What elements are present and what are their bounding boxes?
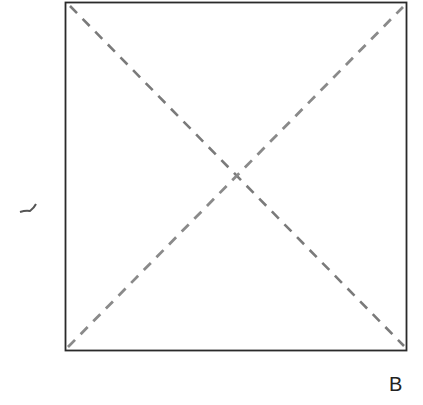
- stray-mark: [20, 204, 36, 212]
- corner-label-b: B: [389, 373, 402, 396]
- diagonal-ascending: [68, 7, 403, 347]
- diagram-canvas: [0, 0, 423, 405]
